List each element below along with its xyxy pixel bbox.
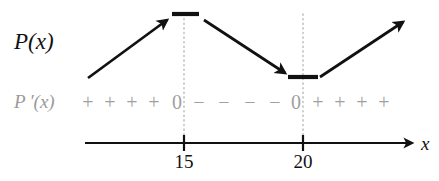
decreasing-arrow-middle: [204, 20, 285, 73]
increasing-arrow-left: [88, 20, 167, 78]
sign-chart-figure: P(x) P ′(x) x ++++0−−−−0++++ 1520: [0, 0, 439, 181]
increasing-arrow-right: [320, 22, 403, 77]
trend-arrow-group: [88, 20, 403, 78]
dotted-guide-group: [184, 14, 303, 143]
number-line-group: [85, 135, 412, 151]
figure-graphics: [0, 0, 439, 181]
